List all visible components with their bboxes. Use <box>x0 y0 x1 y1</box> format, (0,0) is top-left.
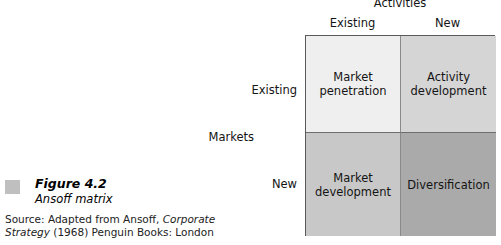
matrix-cell-label-line2: penetration <box>319 84 386 98</box>
matrix-cell-label-line2: development <box>315 185 391 199</box>
matrix-cell-market-development: Market development <box>306 133 401 236</box>
matrix-cell-activity-development: Activity development <box>401 36 496 133</box>
matrix-cell-label-line1: Diversification <box>407 178 490 192</box>
markets-axis-label: Markets <box>134 130 254 144</box>
figure-marker-square <box>5 180 20 194</box>
matrix-cell-diversification: Diversification <box>401 133 496 236</box>
ansoff-matrix: Market penetration Activity development … <box>305 35 495 236</box>
figure-caption-block: Figure 4.2 Ansoff matrix Source: Adapted… <box>5 176 265 239</box>
figure-number: Figure 4.2 <box>35 176 265 191</box>
matrix-cell-label-line2: development <box>411 84 487 98</box>
column-header-new: New <box>400 16 495 30</box>
matrix-cell-label-line1: Activity <box>411 70 487 84</box>
figure-title: Ansoff matrix <box>35 192 265 206</box>
column-header-existing: Existing <box>305 16 400 30</box>
matrix-cell-label-line1: Market <box>315 171 391 185</box>
figure-source: Source: Adapted from Ansoff, Corporate S… <box>5 213 237 239</box>
row-header-existing: Existing <box>177 83 297 97</box>
matrix-cell-market-penetration: Market penetration <box>306 36 401 133</box>
figure-source-suffix: (1968) Penguin Books: London <box>50 226 214 238</box>
figure-source-prefix: Source: Adapted from Ansoff, <box>5 213 163 225</box>
matrix-cell-label-line1: Market <box>319 70 386 84</box>
activities-axis-label: Activities <box>305 0 495 10</box>
